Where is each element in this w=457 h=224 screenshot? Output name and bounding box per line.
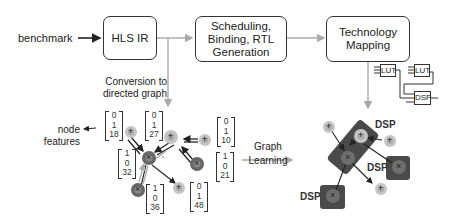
benchmark-label: benchmark [18,32,72,45]
mul-node-icon: × [396,160,401,173]
feature-vector: 0118 [105,111,123,141]
mul-node-icon: × [194,157,199,170]
dsp-label: DSP [367,162,388,173]
conversion-label: Conversion to directed graph [103,76,167,100]
mul-node-icon: × [135,183,140,196]
stage-label: Technology Mapping [327,26,409,52]
lut-chip: LUT [380,64,396,77]
feature-vector: 1032 [118,149,136,179]
add-node-icon: + [358,129,363,142]
add-node-icon: + [326,120,331,133]
feature-vector: 0148 [190,182,208,212]
feature-vector: 0127 [145,111,163,141]
lut-chip: LUT [414,64,430,77]
feature-vector: 1036 [146,184,164,214]
stage-tech-mapping: Technology Mapping [326,16,410,62]
feature-vector: 0110 [217,117,235,147]
add-node-icon: + [128,125,133,138]
node-features-label: node features [36,124,80,148]
add-node-icon: + [176,181,181,194]
add-node-icon: + [387,134,392,147]
stage-hls-ir: HLS IR [103,16,157,60]
mul-node-icon: × [330,189,335,202]
stage-label: HLS IR [111,32,148,45]
add-node-icon: + [168,130,173,143]
add-node-icon: + [378,182,383,195]
graph-learning-label: Graph Learning [248,140,288,168]
add-node-icon: + [202,133,207,146]
dsp-label: DSP [300,191,321,202]
dsp-label: DSP [375,119,396,130]
mul-node-icon: × [146,151,151,164]
feature-vector: 1021 [216,152,234,182]
mul-node-icon: × [345,151,350,164]
stage-label: Scheduling, Binding, RTL Generation [196,20,286,59]
stage-scheduling: Scheduling, Binding, RTL Generation [195,16,287,62]
node-features-pointer [84,128,96,129]
dsp-chip: DSP [414,91,431,105]
input-graph-edges [128,137,198,186]
